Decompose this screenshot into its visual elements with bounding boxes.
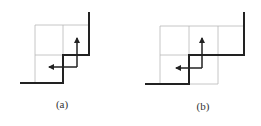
panel-a [20,12,89,83]
panel-a-label: (a) [56,98,68,110]
panel-b [145,12,244,84]
diagram-canvas [0,0,261,126]
panel-b-label: (b) [197,100,210,112]
staircase-boundary-a [20,12,89,83]
